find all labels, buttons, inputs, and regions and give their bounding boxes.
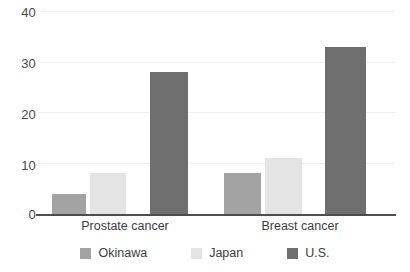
bar-breast-okinawa bbox=[224, 173, 261, 214]
y-tick-label-40: 40 bbox=[2, 6, 36, 19]
y-tick-label-0: 0 bbox=[2, 208, 36, 221]
legend-item-japan: Japan bbox=[191, 246, 243, 260]
bar-prostate-okinawa bbox=[52, 194, 86, 214]
plot-area bbox=[38, 11, 395, 214]
x-axis-line bbox=[36, 214, 396, 216]
bar-prostate-japan bbox=[90, 173, 126, 214]
bar-prostate-us bbox=[150, 72, 188, 214]
legend-swatch-icon-japan bbox=[191, 248, 202, 259]
legend-label-japan: Japan bbox=[209, 246, 243, 260]
legend-label-us: U.S. bbox=[305, 246, 329, 260]
legend-item-okinawa: Okinawa bbox=[80, 246, 147, 260]
y-tick-label-10: 10 bbox=[2, 159, 36, 172]
x-tick-label-breast-cancer: Breast cancer bbox=[240, 218, 360, 234]
legend: Okinawa Japan U.S. bbox=[0, 243, 410, 263]
legend-label-okinawa: Okinawa bbox=[98, 246, 147, 260]
legend-swatch-icon-us bbox=[287, 248, 298, 259]
y-tick-label-30: 30 bbox=[2, 57, 36, 70]
legend-item-us: U.S. bbox=[287, 246, 329, 260]
x-tick-label-prostate-cancer: Prostate cancer bbox=[60, 218, 190, 234]
bar-chart: 40 30 20 10 0 Prostate cancer Breast can… bbox=[0, 0, 410, 272]
bar-breast-japan bbox=[265, 158, 302, 214]
y-axis: 40 30 20 10 0 bbox=[0, 0, 36, 272]
bar-breast-us bbox=[325, 47, 366, 214]
gridline-40 bbox=[38, 11, 395, 12]
y-tick-label-20: 20 bbox=[2, 108, 36, 121]
legend-swatch-icon-okinawa bbox=[80, 248, 91, 259]
